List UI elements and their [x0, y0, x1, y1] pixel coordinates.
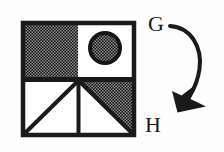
label-g: G: [148, 11, 164, 36]
shaded-circle: [90, 33, 120, 63]
geometric-figure: G H: [0, 0, 224, 152]
label-h: H: [145, 112, 161, 137]
top-left-quadrant: [23, 23, 78, 80]
figure-container: G H: [0, 0, 224, 152]
square-group: [21, 21, 136, 137]
